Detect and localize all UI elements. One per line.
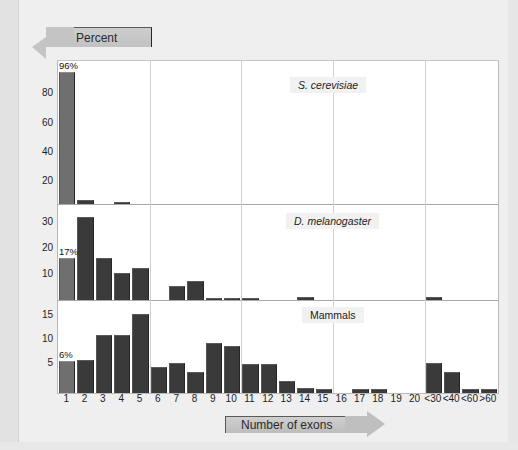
x-axis: 1234567891011121314151617181920<30<40<60…	[57, 393, 497, 409]
xtick-label: 17	[354, 393, 365, 404]
xtick-label: 11	[244, 393, 254, 404]
bar	[261, 364, 277, 393]
panel-d-melanogaster: 17% D. melanogaster	[58, 204, 498, 301]
xtick-label: 14	[299, 393, 310, 404]
ytick-p0-60: 60	[42, 117, 53, 128]
panel-title-1: D. melanogaster	[286, 213, 379, 229]
bar	[96, 335, 112, 393]
xtick-label: 16	[336, 393, 347, 404]
xtick-label: 20	[409, 393, 420, 404]
xtick-label: 12	[262, 393, 273, 404]
bar	[224, 346, 240, 393]
panel-title-0: S. cerevisiae	[290, 77, 366, 93]
vertical-gridline	[425, 61, 426, 393]
page-edge-right	[508, 0, 518, 450]
ytick-p2-10: 10	[42, 333, 53, 344]
xtick-label: >60	[479, 393, 496, 404]
xtick-label: 15	[317, 393, 328, 404]
xtick-label: 10	[226, 393, 237, 404]
x-axis-banner-label: Number of exons	[241, 418, 332, 432]
page-edge-bottom	[0, 442, 518, 450]
xtick-label: <60	[461, 393, 478, 404]
xtick-label: 9	[210, 393, 216, 404]
bar	[169, 363, 185, 393]
bar	[444, 372, 460, 393]
ytick-p0-80: 80	[42, 87, 53, 98]
xtick-label: 4	[118, 393, 124, 404]
bars-panel-0: 96%	[58, 61, 498, 204]
bar	[77, 217, 93, 301]
bars-panel-1: 17%	[58, 205, 498, 301]
bar	[187, 372, 203, 393]
vertical-gridline	[241, 61, 242, 393]
bar	[77, 360, 93, 393]
ytick-p1-10: 10	[42, 268, 53, 279]
xtick-label: 13	[281, 393, 292, 404]
ytick-p2-5: 5	[47, 357, 53, 368]
xtick-label: 8	[192, 393, 198, 404]
y-axis: 80 60 40 20 30 20 10 15 10 5	[0, 60, 57, 392]
bar	[59, 72, 75, 204]
ytick-p2-15: 15	[42, 309, 53, 320]
vertical-gridline	[150, 61, 151, 393]
xtick-label: 6	[155, 393, 161, 404]
bar-value-label: 96%	[59, 60, 78, 71]
panel-title-2: Mammals	[302, 307, 364, 323]
xtick-label: 18	[372, 393, 383, 404]
right-arrow-icon	[345, 411, 385, 438]
panel-s-cerevisiae: 96% S. cerevisiae	[58, 61, 498, 204]
x-axis-banner: Number of exons	[225, 414, 385, 435]
bar	[426, 363, 442, 393]
bar	[151, 367, 167, 393]
xtick-label: 3	[100, 393, 106, 404]
bar-value-label: 6%	[59, 349, 73, 360]
bar	[96, 258, 112, 301]
figure-root: Percent 80 60 40 20 30 20 10 15 10 5 96%…	[0, 0, 518, 450]
xtick-label: 19	[391, 393, 402, 404]
xtick-label: 2	[82, 393, 88, 404]
bar	[187, 281, 203, 301]
plot-area: 96% S. cerevisiae 17% D. melanogaster 6%…	[57, 60, 499, 394]
ytick-p1-20: 20	[42, 242, 53, 253]
bar	[114, 273, 130, 301]
bar	[169, 286, 185, 301]
bar-value-label: 17%	[59, 246, 78, 257]
xtick-label: <40	[443, 393, 460, 404]
xtick-label: <30	[424, 393, 441, 404]
ytick-p0-40: 40	[42, 146, 53, 157]
bar	[59, 361, 75, 393]
ytick-p1-30: 30	[42, 216, 53, 227]
bar	[132, 268, 148, 301]
xtick-label: 1	[63, 393, 69, 404]
bar	[59, 258, 75, 301]
y-axis-banner: Percent	[32, 27, 152, 48]
bar	[242, 364, 258, 393]
bar	[279, 381, 295, 393]
bar	[132, 314, 148, 393]
y-axis-banner-label: Percent	[76, 31, 117, 45]
bar	[206, 343, 222, 393]
panel-mammals: 6% Mammals	[58, 300, 498, 393]
xtick-label: 5	[137, 393, 143, 404]
bar	[114, 335, 130, 393]
bars-panel-2: 6%	[58, 301, 498, 393]
ytick-p0-20: 20	[42, 175, 53, 186]
xtick-label: 7	[173, 393, 179, 404]
